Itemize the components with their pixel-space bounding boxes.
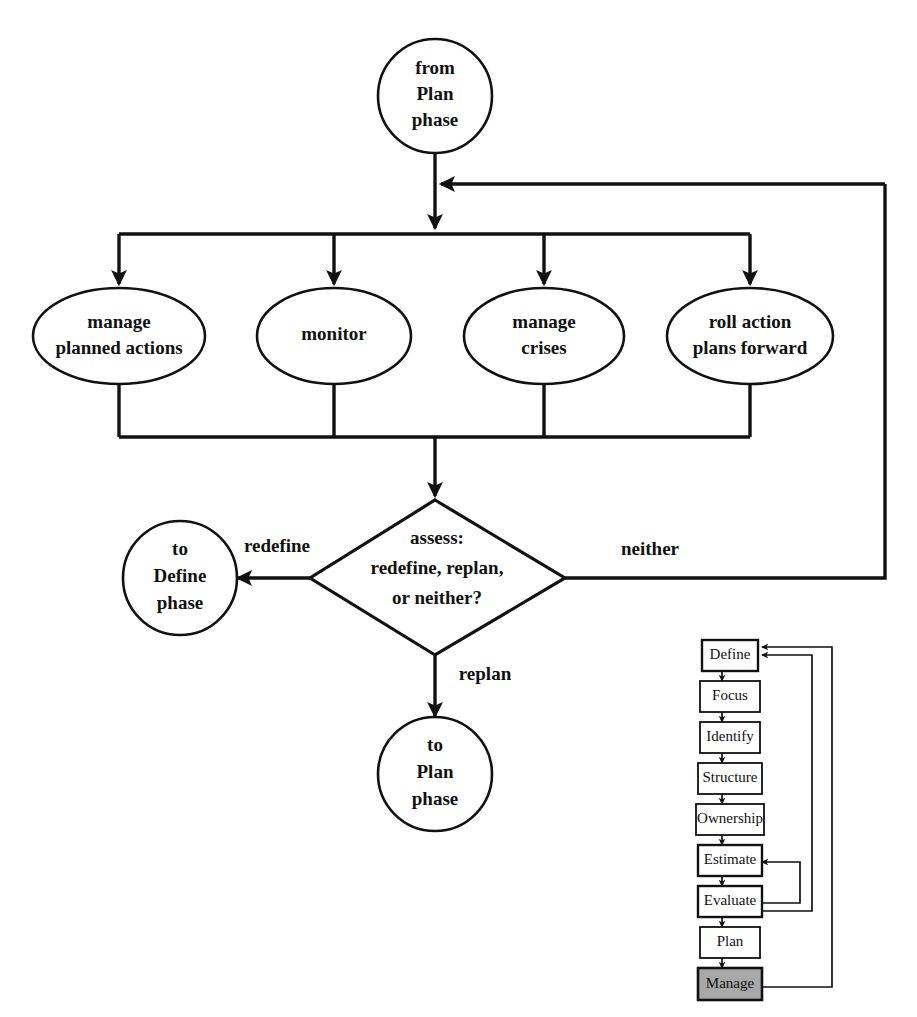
node-activity-1-line-2: planned actions [55,337,182,358]
node-decision-line-1: assess: [410,527,464,548]
mini-label-identify: Identify [706,728,754,744]
node-activity-1-line-1: manage [87,311,150,332]
node-start-line-1: from [415,57,455,78]
mini-edge-manage-to-define [758,647,832,987]
node-exit-plan-line-1: to [427,734,443,755]
mini-label-evaluate: Evaluate [704,892,757,908]
mini-label-define: Define [710,646,751,662]
node-activity-4-line-2: plans forward [693,337,808,358]
flowchart-canvas: from Plan phase manage planned actions m… [0,0,917,1017]
mini-label-estimate: Estimate [704,851,757,867]
node-activity-3-line-2: crises [521,337,566,358]
edge-label-replan: replan [459,663,512,684]
mini-label-focus: Focus [712,687,748,703]
mini-label-structure: Structure [703,769,758,785]
edge-label-redefine: redefine [244,535,310,556]
flowchart-svg: from Plan phase manage planned actions m… [0,0,917,1017]
node-activity-2-line-1: monitor [301,323,367,344]
mini-label-plan: Plan [717,933,744,949]
node-decision-line-3: or neither? [392,587,482,608]
node-start-line-2: Plan [417,83,454,104]
node-exit-define-line-2: Define [154,565,207,586]
node-exit-plan-line-2: Plan [417,761,454,782]
edge-label-neither: neither [621,538,680,559]
mini-edge-evaluate-to-define [756,655,812,911]
node-activity-4-line-1: roll action [709,311,792,332]
node-activity-3-ellipse [464,288,624,384]
node-start-line-3: phase [412,109,458,130]
node-exit-define-line-3: phase [157,592,203,613]
node-activity-3-line-1: manage [512,311,575,332]
mini-label-manage: Manage [706,975,755,991]
node-activity-1-ellipse [33,288,205,384]
node-exit-plan-line-3: phase [412,788,458,809]
mini-label-ownership: Ownership [697,810,763,826]
node-activity-4-ellipse [667,288,833,384]
node-exit-define-line-1: to [172,538,188,559]
node-decision-line-2: redefine, replan, [371,557,504,578]
mini-process-diagram: Define Focus Identify Structure Ownershi… [696,640,832,1000]
